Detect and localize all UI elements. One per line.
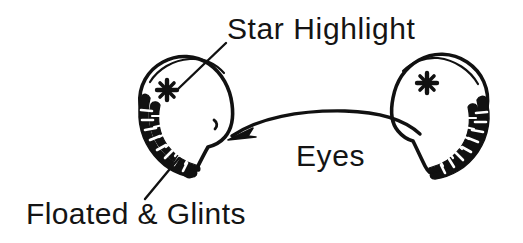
- left-eye-star-icon: [157, 80, 177, 100]
- star-highlight-leader: [178, 43, 226, 89]
- label-eyes: Eyes: [296, 141, 365, 171]
- label-floated-glints: Floated & Glints: [26, 199, 246, 229]
- sketch-canvas: Star Highlight Eyes Floated & Glints: [0, 0, 523, 243]
- right-eye: [392, 54, 489, 179]
- label-star-highlight: Star Highlight: [227, 14, 416, 44]
- left-eye-hook-mark: [214, 120, 217, 129]
- left-eye: [139, 57, 233, 177]
- right-eye-star-icon: [417, 73, 437, 93]
